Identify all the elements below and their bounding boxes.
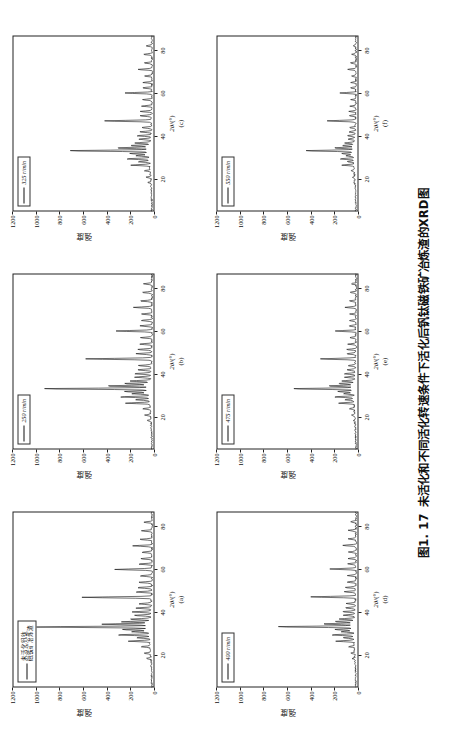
panel-a-x-tickmark (154, 568, 157, 569)
panel-d-letter: (d) (380, 595, 388, 603)
panel-b-x-tickmark (154, 288, 157, 289)
panel-d-x-tick: 80 (362, 523, 369, 529)
panel-e-y-tickmark (310, 449, 311, 452)
panel-a-x-tickmark (154, 611, 157, 612)
panel-e-y-tickmark (334, 449, 335, 452)
panel-d-x-axis-title: 2θ/(°) (371, 591, 379, 607)
panel-e-x-tick: 60 (362, 328, 369, 334)
panel-e: 475 r/min 强度 2θ/(°) (e) 1200100080060040… (212, 265, 398, 489)
panel-b-y-tickmark (106, 449, 107, 452)
panel-c-y-tickmark (83, 211, 84, 214)
panel-d: 400 r/min 强度 2θ/(°) (d) 1200100080060040… (212, 503, 398, 727)
panel-b-x-tick: 80 (158, 285, 165, 291)
panel-d-x-tickmark (358, 654, 361, 655)
panel-d-legend: 400 r/min (221, 632, 234, 682)
figure-page: 未活化钒钛 磁铁矿冶炼渣 强度 2θ/(°) (a) 1200100080060… (0, 0, 467, 745)
panel-d-y-tickmark (263, 687, 264, 690)
panel-b-y-tickmark (83, 449, 84, 452)
panel-f-trace (306, 35, 357, 211)
panel-d-y-tickmark (287, 687, 288, 690)
panel-f-x-tick: 20 (362, 176, 369, 182)
panel-c-trace (70, 35, 152, 211)
panel-c-x-tickmark (154, 92, 157, 93)
panel-a-legend: 未活化钒钛 磁铁矿冶炼渣 (17, 620, 36, 682)
panel-d-y-axis-label: 强度 (279, 708, 295, 719)
panel-c-y-tickmark (35, 211, 36, 214)
panel-a-y-tickmark (35, 687, 36, 690)
panel-e-x-tick: 40 (362, 371, 369, 377)
panel-b: 250 r/min 强度 2θ/(°) (b) 1200100080060040… (8, 265, 194, 489)
panel-d-spectrum (216, 511, 358, 687)
panel-c-x-tick: 80 (158, 47, 165, 53)
panel-e-x-axis-title: 2θ/(°) (371, 353, 379, 369)
panel-e-y-tickmark (216, 449, 217, 452)
panel-a-x-tick: 80 (158, 523, 165, 529)
panel-b-letter: (b) (176, 357, 184, 365)
panel-f-letter: (f) (380, 120, 388, 127)
panel-b-x-tickmark (154, 416, 157, 417)
panel-d-trace (278, 511, 356, 687)
panel-e-plot-area: 475 r/min 强度 2θ/(°) (e) 1200100080060040… (216, 273, 358, 449)
panel-b-x-tick: 60 (158, 328, 165, 334)
panel-b-x-tick: 20 (158, 414, 165, 420)
panel-b-y-axis-label: 强度 (75, 470, 91, 481)
panel-d-y-tickmark (216, 687, 217, 690)
legend-line-swatch (23, 187, 24, 203)
panel-c: 325 r/min 强度 2θ/(°) (c) 1200100080060040… (8, 27, 194, 251)
panel-f-y-tickmark (263, 211, 264, 214)
panel-e-legend: 475 r/min (221, 394, 234, 444)
panel-d-y-tickmark (358, 687, 359, 690)
panel-b-x-tick: 40 (158, 371, 165, 377)
panel-c-x-axis-title: 2θ/(°) (167, 115, 175, 131)
panel-b-y-tickmark (154, 449, 155, 452)
panel-c-x-tick: 20 (158, 176, 165, 182)
panel-c-legend: 325 r/min (17, 156, 30, 206)
panel-d-y-tickmark (310, 687, 311, 690)
panel-c-x-tick: 40 (158, 133, 165, 139)
panel-c-legend-label: 325 r/min (20, 160, 27, 184)
panel-d-plot-area: 400 r/min 强度 2θ/(°) (d) 1200100080060040… (216, 511, 358, 687)
panel-b-y-tickmark (59, 449, 60, 452)
panel-f-x-tickmark (358, 92, 361, 93)
panel-b-spectrum (12, 273, 154, 449)
panel-e-y-axis-label: 强度 (279, 470, 295, 481)
panel-d-y-tickmark (334, 687, 335, 690)
panel-a-x-tick: 20 (158, 652, 165, 658)
panel-f-x-tick: 80 (362, 47, 369, 53)
panel-d-x-tick: 60 (362, 566, 369, 572)
panel-a: 未活化钒钛 磁铁矿冶炼渣 强度 2θ/(°) (a) 1200100080060… (8, 503, 194, 727)
panel-a-y-tickmark (106, 687, 107, 690)
panel-e-y-tickmark (239, 449, 240, 452)
panel-f-legend-label: 550 r/min (224, 160, 231, 184)
panel-a-y-tickmark (130, 687, 131, 690)
panel-e-x-tickmark (358, 330, 361, 331)
panel-f-x-tickmark (358, 178, 361, 179)
panel-f-x-axis-title: 2θ/(°) (371, 115, 379, 131)
panel-b-y-tickmark (130, 449, 131, 452)
panel-a-x-tickmark (154, 654, 157, 655)
panel-f-y-tickmark (216, 211, 217, 214)
panel-a-x-tickmark (154, 526, 157, 527)
panel-f: 550 r/min 强度 2θ/(°) (f) 1200100080060040… (212, 27, 398, 251)
panel-a-x-axis-title: 2θ/(°) (167, 591, 175, 607)
panel-c-x-tickmark (154, 178, 157, 179)
panel-d-y-tickmark (239, 687, 240, 690)
legend-line-swatch (227, 663, 228, 679)
panel-c-y-tickmark (59, 211, 60, 214)
panel-b-x-axis-title: 2θ/(°) (167, 353, 175, 369)
panel-e-y-tickmark (287, 449, 288, 452)
panel-c-x-tick: 60 (158, 90, 165, 96)
panel-d-x-tickmark (358, 568, 361, 569)
panel-a-y-tickmark (154, 687, 155, 690)
panel-b-legend: 250 r/min (17, 394, 30, 444)
legend-line-swatch (227, 425, 228, 441)
panel-c-y-axis-label: 强度 (75, 232, 91, 243)
legend-line-swatch (26, 663, 27, 679)
panel-f-x-tickmark (358, 50, 361, 51)
panel-c-letter: (c) (176, 119, 184, 127)
panel-c-x-tickmark (154, 50, 157, 51)
panel-a-letter: (a) (176, 595, 184, 603)
panel-b-plot-area: 250 r/min 强度 2θ/(°) (b) 1200100080060040… (12, 273, 154, 449)
panel-a-trace (33, 511, 152, 687)
panel-e-trace (293, 273, 356, 449)
